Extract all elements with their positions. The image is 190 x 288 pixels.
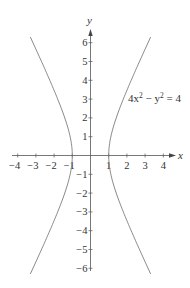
x-tick-label: −3	[27, 160, 38, 171]
y-tick-label: 4	[82, 75, 88, 86]
y-tick-label: 5	[82, 56, 87, 67]
x-tick-label: 3	[142, 160, 147, 171]
x-axis-label: x	[177, 149, 183, 161]
x-tick-label: −2	[46, 160, 57, 171]
x-ticks: −4−3−2−11234	[9, 154, 167, 171]
hyperbola-chart: −4−3−2−11234 654321−1−2−3−4−5−6 x y 4x2 …	[0, 0, 190, 288]
x-tick-label: −4	[9, 160, 21, 171]
y-axis-label: y	[86, 14, 92, 26]
x-axis-arrow-icon	[169, 153, 176, 157]
y-tick-label: 6	[82, 37, 87, 48]
y-tick-label: 3	[82, 94, 87, 105]
x-tick-label: 4	[161, 160, 167, 171]
y-axis	[88, 29, 92, 271]
y-tick-label: −3	[76, 206, 87, 217]
x-tick-label: 2	[124, 160, 129, 171]
y-tick-label: −6	[76, 263, 87, 274]
y-tick-label: 2	[82, 112, 87, 123]
y-axis-arrow-icon	[88, 29, 92, 36]
y-tick-label: −2	[76, 188, 87, 199]
y-tick-label: −1	[76, 169, 87, 180]
y-tick-label: 1	[82, 131, 87, 142]
x-axis	[12, 153, 176, 157]
x-tick-label: −1	[64, 160, 75, 171]
equation-label: 4x2 − y2 = 4	[128, 91, 181, 104]
y-tick-label: −5	[76, 244, 87, 255]
y-tick-label: −4	[76, 225, 88, 236]
